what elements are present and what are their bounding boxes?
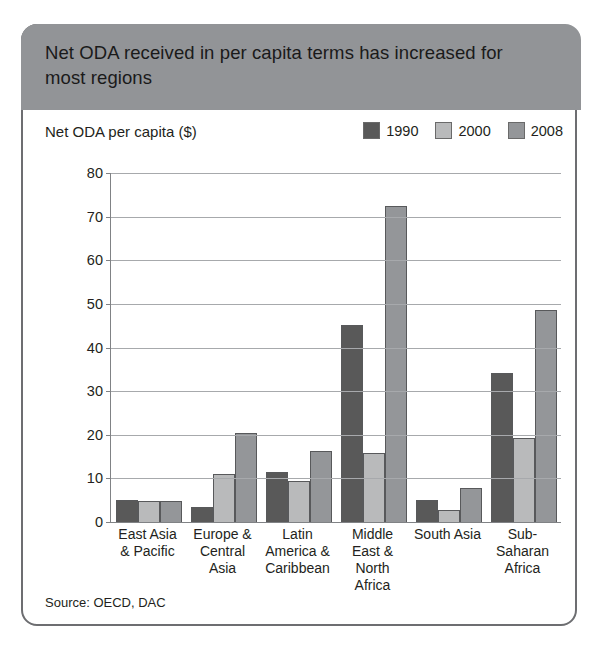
bar-2008: [310, 451, 332, 522]
y-tick-mark-70: [106, 217, 111, 218]
bar-2008: [460, 488, 482, 522]
x-axis-label: Europe & Central Asia: [185, 526, 260, 594]
x-axis-label: East Asia & Pacific: [110, 526, 185, 594]
y-tick-mark-30: [106, 391, 111, 392]
y-tick-label-50: 50: [87, 296, 103, 312]
source-note: Source: OECD, DAC: [45, 595, 166, 610]
y-tick-label-0: 0: [95, 514, 103, 530]
y-tick-mark-50: [106, 304, 111, 305]
bar-2000: [288, 481, 310, 522]
gridline-70: [111, 217, 561, 218]
bar-2000: [363, 453, 385, 522]
bar-2008: [535, 310, 557, 522]
gridline-10: [111, 478, 561, 479]
y-tick-label-30: 30: [87, 383, 103, 399]
y-tick-label-70: 70: [87, 208, 103, 224]
bar-1990: [191, 507, 213, 522]
bar-1990: [416, 500, 438, 522]
bar-2000: [138, 501, 160, 522]
bar-1990: [116, 500, 138, 522]
y-tick-mark-10: [106, 478, 111, 479]
y-tick-mark-80: [106, 173, 111, 174]
y-tick-mark-20: [106, 435, 111, 436]
gridline-50: [111, 304, 561, 305]
bar-2000: [213, 474, 235, 522]
bar-1990: [491, 373, 513, 522]
bar-2000: [513, 438, 535, 522]
x-axis-category-labels: East Asia & PacificEurope & Central Asia…: [110, 526, 560, 594]
x-axis-label: South Asia: [410, 526, 485, 594]
y-tick-mark-40: [106, 348, 111, 349]
x-axis-label: Latin America & Caribbean: [260, 526, 335, 594]
y-tick-label-60: 60: [87, 252, 103, 268]
plot-area: 01020304050607080: [110, 173, 561, 523]
y-tick-label-40: 40: [87, 339, 103, 355]
x-axis-label: Middle East & North Africa: [335, 526, 410, 594]
y-tick-label-20: 20: [87, 426, 103, 442]
y-tick-mark-0: [106, 522, 111, 523]
gridline-30: [111, 391, 561, 392]
y-tick-label-10: 10: [87, 470, 103, 486]
y-tick-label-80: 80: [87, 165, 103, 181]
y-tick-mark-60: [106, 260, 111, 261]
gridline-80: [111, 173, 561, 174]
x-axis-label: Sub-Saharan Africa: [485, 526, 560, 594]
bar-2008: [385, 206, 407, 522]
gridline-60: [111, 260, 561, 261]
figure-card: Net ODA received in per capita terms has…: [21, 24, 577, 626]
bar-2000: [438, 510, 460, 522]
bar-2008: [160, 501, 182, 522]
gridline-20: [111, 435, 561, 436]
bar-1990: [341, 325, 363, 522]
gridline-40: [111, 348, 561, 349]
